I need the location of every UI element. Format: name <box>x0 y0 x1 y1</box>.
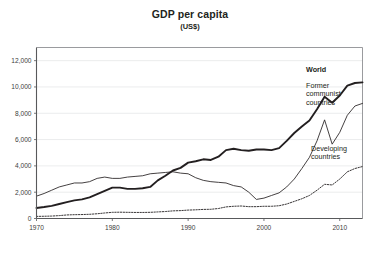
x-tick-label: 1970 <box>29 224 44 231</box>
series-label-line: countries <box>311 152 341 161</box>
x-tick-label: 2010 <box>332 224 347 231</box>
y-tick-label: 6,000 <box>15 136 32 143</box>
y-tick-label: 2,000 <box>15 189 32 196</box>
chart-figure: GDP per capita (US$) 02,0004,0006,0008,0… <box>0 0 380 254</box>
y-tick-label: 12,000 <box>11 57 32 64</box>
x-tick-label: 1990 <box>181 224 196 231</box>
x-tick-label: 1980 <box>105 224 120 231</box>
series-label-world: World <box>306 65 326 74</box>
series-label-line: countries <box>306 98 336 107</box>
y-tick-label: 10,000 <box>11 83 32 90</box>
series-label-line: World <box>306 65 326 74</box>
gdp-per-capita-line-chart: 02,0004,0006,0008,00010,00012,000 197019… <box>0 0 380 254</box>
y-tick-label: 4,000 <box>15 162 32 169</box>
y-tick-label: 8,000 <box>15 110 32 117</box>
y-tick-label: 0 <box>28 215 32 222</box>
x-tick-label: 2000 <box>257 224 272 231</box>
